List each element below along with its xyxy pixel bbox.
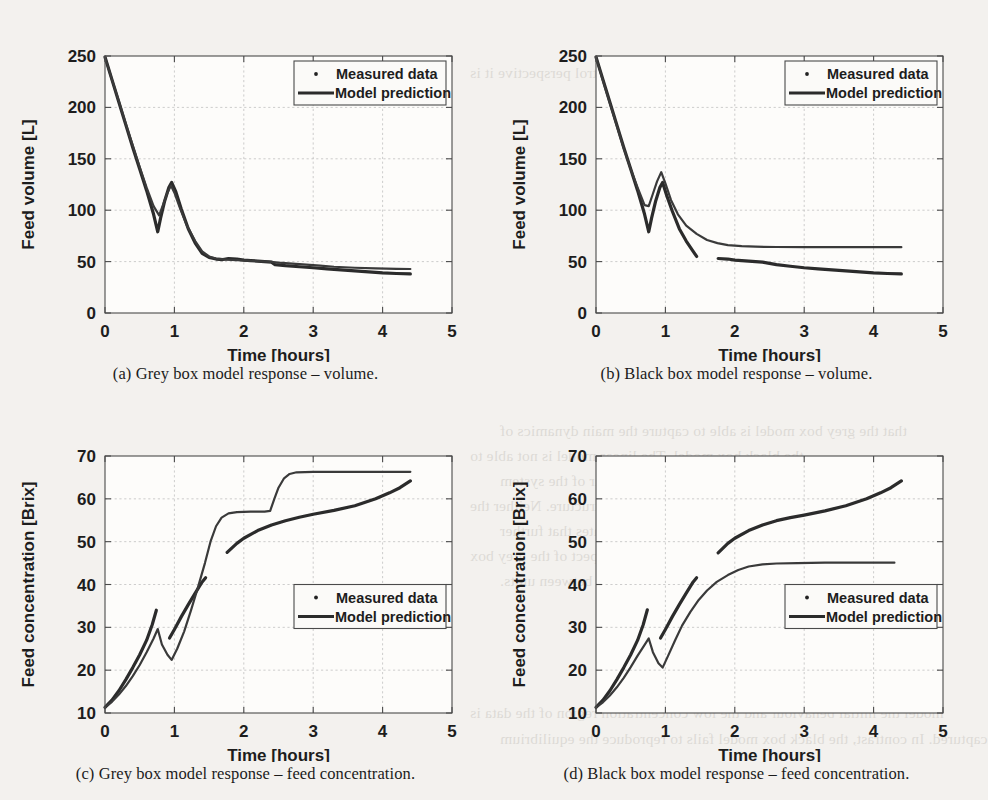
x-tick-label: 3 [308, 722, 317, 741]
x-tick-label: 0 [591, 722, 600, 741]
panel-c: 01234510203040506070Time [hours]Feed con… [0, 400, 491, 800]
y-tick-label: 70 [568, 447, 587, 466]
x-tick-label: 2 [730, 722, 739, 741]
panel-b: 012345050100150200250Time [hours]Feed vo… [491, 0, 982, 400]
x-tick-label: 2 [730, 322, 739, 341]
plot-c: 01234510203040506070Time [hours]Feed con… [0, 400, 491, 762]
x-tick-label: 0 [100, 722, 109, 741]
x-axis-title: Time [hours] [718, 746, 821, 762]
y-tick-label: 200 [68, 98, 96, 117]
x-tick-label: 4 [869, 322, 879, 341]
caption-d: (d) Black box model response – feed conc… [491, 764, 982, 784]
panel-a: 012345050100150200250Time [hours]Feed vo… [0, 0, 491, 400]
legend-label-measured: Measured data [827, 590, 929, 606]
y-tick-label: 30 [77, 618, 96, 637]
legend-c: Measured dataModel prediction [294, 585, 451, 629]
panel-d: 01234510203040506070Time [hours]Feed con… [491, 400, 982, 800]
x-axis-title: Time [hours] [227, 346, 330, 362]
y-tick-label: 20 [77, 661, 96, 680]
legend-label-model: Model prediction [826, 85, 942, 101]
x-tick-label: 3 [308, 322, 317, 341]
y-tick-label: 50 [568, 533, 587, 552]
y-tick-label: 0 [87, 304, 96, 323]
y-tick-label: 50 [568, 253, 587, 272]
x-tick-label: 5 [447, 722, 456, 741]
y-tick-label: 70 [77, 447, 96, 466]
x-tick-label: 1 [170, 322, 179, 341]
legend-marker-dot [314, 596, 318, 600]
legend-label-model: Model prediction [826, 609, 942, 625]
x-tick-label: 1 [661, 722, 670, 741]
y-tick-label: 10 [77, 704, 96, 723]
y-axis-title: Feed concentration [Brix] [510, 482, 529, 688]
chart-c: 01234510203040506070Time [hours]Feed con… [0, 400, 491, 762]
x-axis-title: Time [hours] [718, 346, 821, 362]
caption-b: (b) Black box model response – volume. [491, 364, 982, 384]
caption-a: (a) Grey box model response – volume. [0, 364, 491, 384]
y-tick-label: 40 [568, 576, 587, 595]
y-axis-title: Feed volume [L] [19, 119, 38, 249]
plot-d: 01234510203040506070Time [hours]Feed con… [491, 400, 982, 762]
y-tick-label: 40 [77, 576, 96, 595]
x-tick-label: 2 [239, 722, 248, 741]
legend-label-measured: Measured data [336, 590, 438, 606]
legend-d: Measured dataModel prediction [785, 585, 942, 629]
y-tick-label: 250 [559, 47, 587, 66]
y-tick-label: 250 [68, 47, 96, 66]
y-tick-label: 200 [559, 98, 587, 117]
legend-marker-dot [805, 596, 809, 600]
x-tick-label: 3 [799, 322, 808, 341]
y-tick-label: 30 [568, 618, 587, 637]
legend-label-model: Model prediction [335, 85, 451, 101]
caption-c: (c) Grey box model response – feed conce… [0, 764, 491, 784]
legend-a: Measured dataModel prediction [294, 61, 451, 105]
y-tick-label: 100 [559, 201, 587, 220]
chart-d: 01234510203040506070Time [hours]Feed con… [491, 400, 982, 762]
y-tick-label: 100 [68, 201, 96, 220]
y-tick-label: 150 [68, 150, 96, 169]
x-tick-label: 1 [661, 322, 670, 341]
x-tick-label: 2 [239, 322, 248, 341]
x-tick-label: 3 [799, 722, 808, 741]
x-axis-title: Time [hours] [227, 746, 330, 762]
legend-label-measured: Measured data [336, 66, 438, 82]
y-tick-label: 0 [578, 304, 587, 323]
plot-a: 012345050100150200250Time [hours]Feed vo… [0, 0, 491, 362]
legend-label-measured: Measured data [827, 66, 929, 82]
y-tick-label: 60 [77, 490, 96, 509]
y-tick-label: 50 [77, 533, 96, 552]
x-tick-label: 5 [938, 322, 947, 341]
legend-b: Measured dataModel prediction [785, 61, 942, 105]
x-tick-label: 4 [378, 322, 388, 341]
y-tick-label: 10 [568, 704, 587, 723]
x-tick-label: 4 [378, 722, 388, 741]
y-axis-title: Feed volume [L] [510, 119, 529, 249]
x-tick-label: 5 [938, 722, 947, 741]
chart-b: 012345050100150200250Time [hours]Feed vo… [491, 0, 982, 362]
y-tick-label: 60 [568, 490, 587, 509]
plot-b: 012345050100150200250Time [hours]Feed vo… [491, 0, 982, 362]
y-tick-label: 20 [568, 661, 587, 680]
x-tick-label: 1 [170, 722, 179, 741]
x-tick-label: 0 [591, 322, 600, 341]
x-tick-label: 5 [447, 322, 456, 341]
y-axis-title: Feed concentration [Brix] [19, 482, 38, 688]
chart-a: 012345050100150200250Time [hours]Feed vo… [0, 0, 491, 362]
legend-label-model: Model prediction [335, 609, 451, 625]
x-tick-label: 0 [100, 322, 109, 341]
x-tick-label: 4 [869, 722, 879, 741]
legend-marker-dot [314, 72, 318, 76]
legend-marker-dot [805, 72, 809, 76]
y-tick-label: 150 [559, 150, 587, 169]
y-tick-label: 50 [77, 253, 96, 272]
